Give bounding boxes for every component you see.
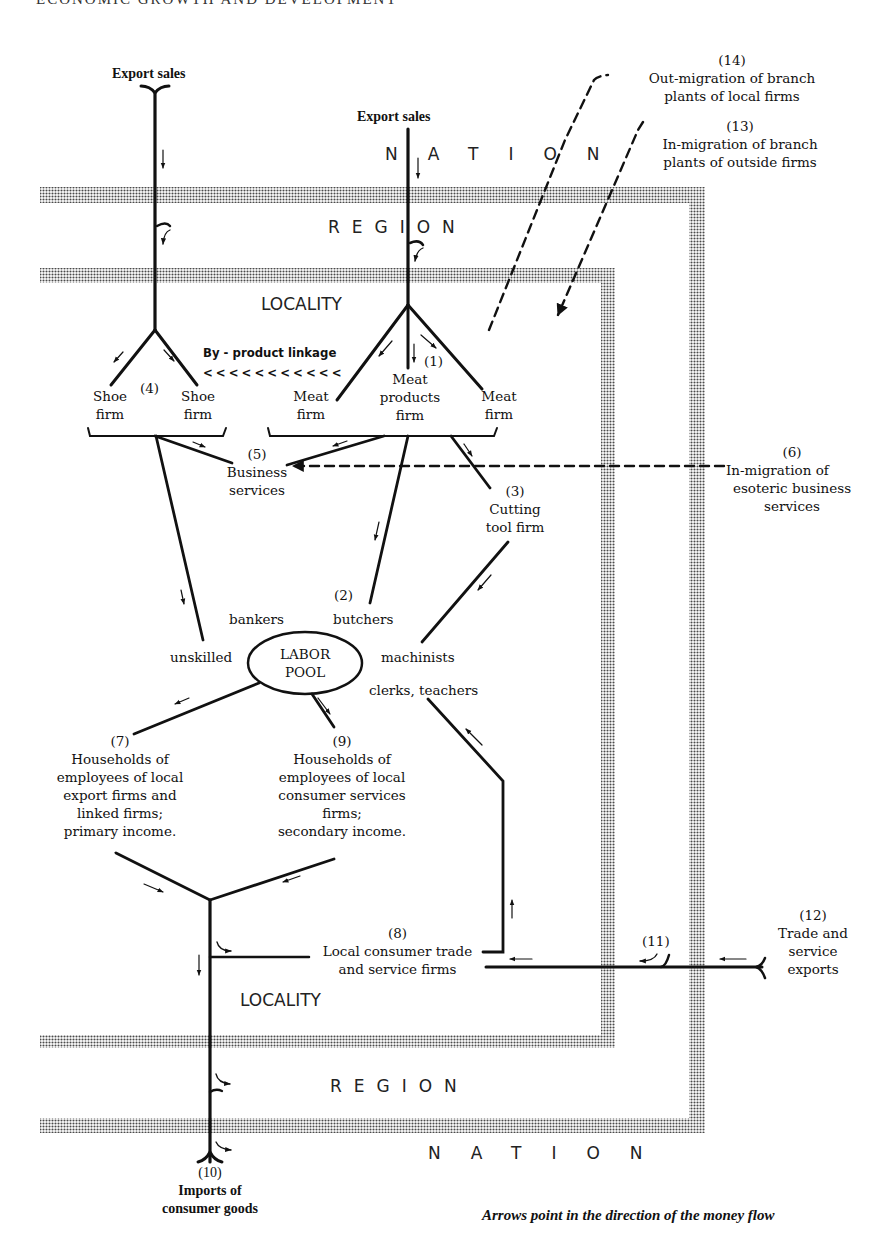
node-9-line4: firms; [262, 804, 422, 822]
node-8: (8) Local consumer trade and service fir… [310, 924, 485, 978]
shoe-firm-right-line1: Shoe [177, 387, 219, 405]
node-13-number: (13) [615, 117, 865, 135]
cutting-tool-link [451, 436, 490, 488]
node-5-number: (5) [222, 445, 292, 463]
zone-label-nation-top: NATION [385, 144, 630, 164]
meat-firm-left: Meat firm [288, 387, 334, 423]
node-1-line1: Meat [375, 370, 445, 388]
node-7-line3: export firms and [40, 786, 200, 804]
node-13-line1: In-migration of branch [615, 135, 865, 153]
byproduct-linkage-arrows: < < < < < < < < < < < [203, 365, 341, 380]
shoe-firm-left-line2: firm [89, 405, 131, 423]
node-6-line3: services [722, 497, 862, 515]
node-8-line1: Local consumer trade [310, 942, 485, 960]
node-10-line2: consumer goods [150, 1200, 270, 1218]
node-14: (14) Out-migration of branch plants of l… [612, 51, 852, 105]
node-12-line2: service [768, 942, 858, 960]
labor-type-clerks-teachers: clerks, teachers [369, 681, 478, 699]
node-6-line2: esoteric business [722, 479, 862, 497]
labor-pool-line1: LABOR [265, 645, 345, 663]
shoe-firm-left: Shoe firm [89, 387, 131, 423]
node-8-number: (8) [310, 924, 485, 942]
node-7-line2: employees of local [40, 768, 200, 786]
node-10-number: (10) [150, 1164, 270, 1182]
node-1-line3: firm [375, 406, 445, 424]
shoe-firm-left-line1: Shoe [89, 387, 131, 405]
node-1-number: (1) [424, 352, 443, 370]
diagram-caption: Arrows point in the direction of the mon… [482, 1207, 775, 1224]
node-5-line1: Business [222, 463, 292, 481]
zone-label-locality-bottom: LOCALITY [240, 990, 321, 1010]
zone-label-nation-bottom: NATION [428, 1143, 673, 1163]
node-6-number: (6) [722, 443, 862, 461]
node-9-number: (9) [262, 732, 422, 750]
meat-firm-right-line2: firm [476, 405, 522, 423]
meat-firm-left-line2: firm [288, 405, 334, 423]
node-1-line2: products [375, 388, 445, 406]
node-5-line2: services [222, 481, 292, 499]
node-3-line1: Cutting [475, 500, 555, 518]
node-3: (3) Cutting tool firm [475, 482, 555, 536]
node-6-line1: In-migration of [726, 461, 862, 479]
node-14-line1: Out-migration of branch [612, 69, 852, 87]
node-14-line2: plants of local firms [612, 87, 852, 105]
zone-label-region-top: REGION [328, 217, 467, 237]
labor-type-unskilled: unskilled [170, 648, 232, 666]
node-9-line5: secondary income. [262, 822, 422, 840]
node-1: Meat products firm [375, 370, 445, 424]
node-9-line1: Households of [262, 750, 422, 768]
node-14-number: (14) [612, 51, 852, 69]
labor-type-bankers: bankers [229, 610, 284, 628]
labor-pool-line2: POOL [265, 663, 345, 681]
node-10-line1: Imports of [150, 1182, 270, 1200]
node-4-number: (4) [140, 379, 159, 397]
export-sales-left-label: Export sales [112, 65, 186, 83]
meat-firm-right-line1: Meat [476, 387, 522, 405]
trade-exports-flow [486, 954, 765, 978]
households-to-trunk [116, 853, 334, 900]
meat-firm-left-line1: Meat [288, 387, 334, 405]
node-3-number: (3) [475, 482, 555, 500]
shoe-firm-right-line2: firm [177, 405, 219, 423]
money-flow-diagram [0, 0, 892, 1250]
labor-pool-label: LABOR POOL [265, 645, 345, 681]
node-13-line2: plants of outside firms [615, 153, 865, 171]
node-5: (5) Business services [222, 445, 292, 499]
meat-firm-right: Meat firm [476, 387, 522, 423]
zone-label-locality-top: LOCALITY [261, 294, 342, 314]
export-sales-center-label: Export sales [357, 108, 431, 126]
node-7-line4: linked firms; [40, 804, 200, 822]
node-8-line2: and service firms [310, 960, 485, 978]
node-10: (10) Imports of consumer goods [150, 1164, 270, 1218]
node-12-line1: Trade and [768, 924, 858, 942]
node-9-line3: consumer services [262, 786, 422, 804]
node-12: (12) Trade and service exports [768, 906, 858, 978]
node-12-line3: exports [768, 960, 858, 978]
node-6: (6) In-migration of esoteric business se… [722, 443, 862, 515]
node-7-line1: Households of [40, 750, 200, 768]
node-3-line2: tool firm [475, 518, 555, 536]
labor-type-butchers: butchers [333, 610, 393, 628]
labor-type-machinists: machinists [381, 648, 455, 666]
node-12-number: (12) [768, 906, 858, 924]
node-9: (9) Households of employees of local con… [262, 732, 422, 840]
zone-label-region-bottom: REGION [330, 1076, 469, 1096]
labor-to-households [134, 683, 334, 734]
node-7-line5: primary income. [40, 822, 200, 840]
node-13: (13) In-migration of branch plants of ou… [615, 117, 865, 171]
node-9-line2: employees of local [262, 768, 422, 786]
byproduct-linkage-label: By - product linkage [203, 345, 336, 360]
node-11-number: (11) [642, 932, 670, 950]
consumer-trade-to-labor [428, 699, 512, 952]
shoe-firm-right: Shoe firm [177, 387, 219, 423]
node-2-number: (2) [334, 586, 353, 604]
node-7-number: (7) [40, 732, 200, 750]
node-7: (7) Households of employees of local exp… [40, 732, 200, 840]
